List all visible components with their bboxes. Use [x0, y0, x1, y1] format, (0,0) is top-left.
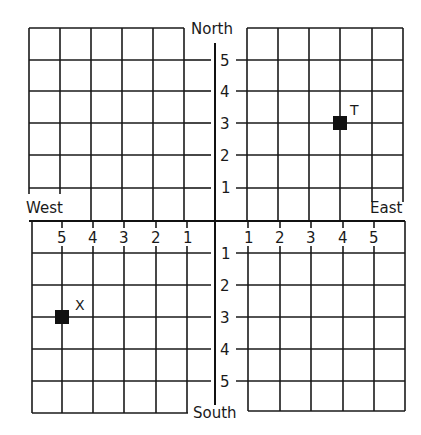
- tick-north-2: 2: [220, 147, 230, 165]
- east-tick-labels: 1 2 3 4 5: [244, 229, 379, 247]
- coordinate-grid-diagram: North South West East 5 4 3 2 1 1 2 3 4 …: [0, 0, 421, 435]
- point-x: X: [55, 297, 85, 324]
- tick-east-1: 1: [244, 229, 254, 247]
- grid-quadrant-southeast: [236, 221, 405, 411]
- tick-west-2: 2: [151, 229, 161, 247]
- tick-west-3: 3: [119, 229, 129, 247]
- tick-north-4: 4: [220, 83, 230, 101]
- grid-quadrant-northeast: [236, 28, 403, 221]
- tick-east-4: 4: [338, 229, 348, 247]
- tick-north-3: 3: [220, 115, 230, 133]
- tick-east-2: 2: [275, 229, 285, 247]
- tick-north-1: 1: [221, 179, 231, 197]
- tick-south-5: 5: [220, 373, 230, 391]
- point-x-label: X: [75, 297, 85, 313]
- south-tick-labels: 1 2 3 4 5: [220, 245, 231, 391]
- tick-west-5: 5: [57, 229, 67, 247]
- west-tick-labels: 5 4 3 2 1: [57, 229, 193, 247]
- point-t-marker: [333, 116, 347, 130]
- grid-quadrant-northwest: [29, 28, 211, 221]
- point-x-marker: [55, 310, 69, 324]
- tick-west-4: 4: [88, 229, 98, 247]
- label-north: North: [191, 20, 233, 38]
- tick-south-2: 2: [220, 277, 230, 295]
- label-west: West: [26, 199, 63, 217]
- tick-east-3: 3: [306, 229, 316, 247]
- tick-south-3: 3: [220, 309, 230, 327]
- point-t-label: T: [349, 102, 359, 118]
- tick-north-5: 5: [220, 52, 230, 70]
- north-tick-labels: 5 4 3 2 1: [220, 52, 231, 197]
- tick-east-5: 5: [369, 229, 379, 247]
- tick-west-1: 1: [183, 229, 193, 247]
- axes: [29, 43, 405, 405]
- tick-south-4: 4: [220, 341, 230, 359]
- label-south: South: [193, 404, 237, 422]
- point-t: T: [333, 102, 359, 130]
- tick-south-1: 1: [221, 245, 231, 263]
- label-east: East: [370, 199, 402, 217]
